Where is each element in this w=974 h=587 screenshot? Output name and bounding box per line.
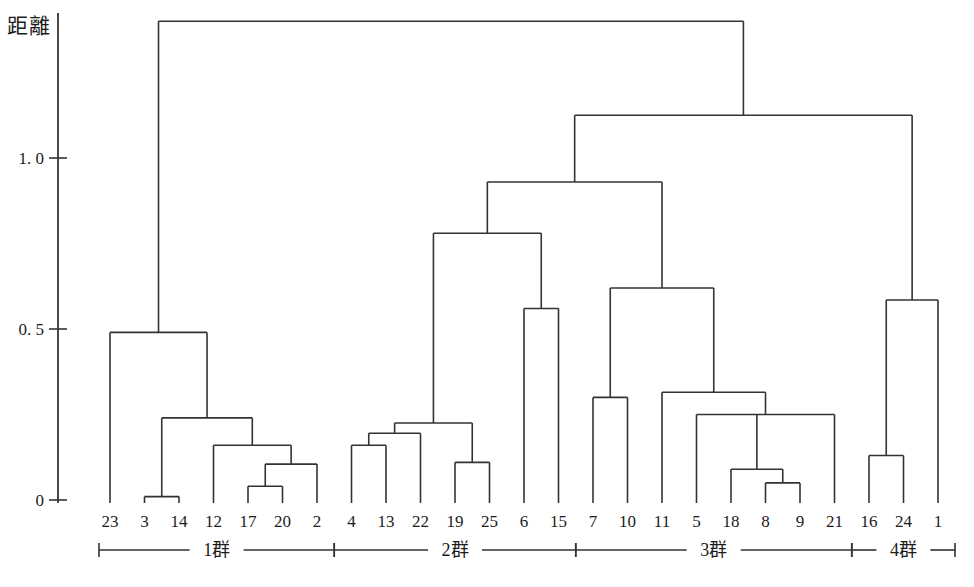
leaf-label: 18	[723, 512, 740, 531]
y-tick-label: 1. 0	[19, 149, 45, 168]
leaf-label: 2	[313, 512, 322, 531]
group-label: 4群	[890, 540, 917, 560]
leaf-label: 21	[826, 512, 843, 531]
y-axis-title: 距離	[7, 9, 51, 39]
leaf-label: 6	[520, 512, 529, 531]
dendrogram-canvas: 00. 51. 02331412172024132219256157101151…	[0, 0, 974, 587]
leaf-label: 20	[274, 512, 291, 531]
leaf-label: 1	[934, 512, 943, 531]
leaf-label: 24	[895, 512, 913, 531]
leaf-label: 22	[412, 512, 429, 531]
leaf-label: 16	[861, 512, 878, 531]
leaf-label: 25	[481, 512, 498, 531]
leaf-label: 8	[761, 512, 770, 531]
dendrogram-figure: 00. 51. 02331412172024132219256157101151…	[0, 0, 974, 587]
leaf-label: 5	[692, 512, 701, 531]
y-tick-label: 0. 5	[19, 320, 45, 339]
leaf-label: 13	[378, 512, 395, 531]
leaf-label: 7	[589, 512, 598, 531]
leaf-label: 4	[347, 512, 356, 531]
y-tick-label: 0	[36, 491, 45, 510]
leaf-label: 14	[171, 512, 189, 531]
leaf-label: 11	[654, 512, 670, 531]
leaf-label: 17	[240, 512, 258, 531]
group-label: 2群	[442, 540, 469, 560]
group-label: 1群	[203, 540, 230, 560]
group-label: 3群	[700, 540, 727, 560]
leaf-label: 3	[140, 512, 149, 531]
leaf-label: 19	[447, 512, 464, 531]
leaf-label: 23	[102, 512, 119, 531]
leaf-label: 10	[619, 512, 636, 531]
leaf-label: 12	[205, 512, 222, 531]
leaf-label: 9	[796, 512, 805, 531]
leaf-label: 15	[550, 512, 567, 531]
